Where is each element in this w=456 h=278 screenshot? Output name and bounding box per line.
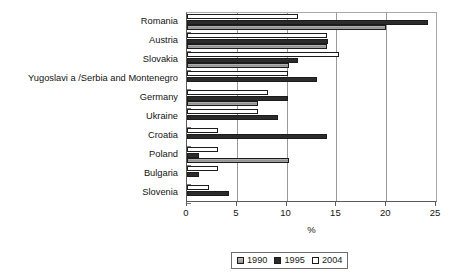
x-tick — [286, 202, 287, 206]
category-label-3: Yugoslavi a /Serbia and Montenegro — [28, 73, 178, 83]
bar-1990-1 — [187, 44, 327, 49]
category-label-2: Slovakia — [143, 54, 178, 64]
bar-2004-4 — [187, 90, 268, 95]
chart-legend: 1990 1995 2004 — [231, 252, 348, 269]
bar-1990-4 — [187, 101, 258, 106]
bar-2004-6 — [187, 128, 218, 133]
bar-1995-7 — [187, 153, 199, 158]
bar-chart: RomaniaAustriaSlovakiaYugoslavi a /Serbi… — [0, 0, 456, 278]
bar-2004-3 — [187, 71, 288, 76]
x-tick-label-5: 25 — [430, 207, 441, 218]
category-label-8: Bulgaria — [144, 168, 178, 178]
legend-item-1990: 1990 — [237, 255, 267, 266]
plot-area — [186, 12, 437, 202]
x-tick — [186, 202, 187, 206]
x-tick — [236, 202, 237, 206]
x-tick-label-1: 5 — [233, 207, 238, 218]
bar-group — [187, 32, 436, 51]
bar-2004-2 — [187, 52, 339, 57]
category-label-9: Slovenia — [142, 187, 178, 197]
x-tick-label-2: 10 — [280, 207, 291, 218]
bar-2004-9 — [187, 185, 209, 190]
bar-group — [187, 165, 436, 184]
bar-group — [187, 184, 436, 203]
white-swatch-icon — [312, 257, 319, 264]
bar-1995-1 — [187, 39, 328, 44]
bar-1990-7 — [187, 158, 289, 163]
x-tick-label-0: 0 — [183, 207, 188, 218]
bar-2004-0 — [187, 14, 298, 19]
category-label-4: Germany — [140, 92, 178, 102]
bar-1995-5 — [187, 115, 278, 120]
category-axis: RomaniaAustriaSlovakiaYugoslavi a /Serbi… — [0, 12, 182, 202]
x-axis-tick-labels: 0510152025 — [186, 207, 437, 221]
legend-label-2004: 2004 — [322, 255, 342, 266]
bar-group — [187, 127, 436, 146]
x-tick — [335, 202, 336, 206]
x-tick-label-4: 20 — [380, 207, 391, 218]
bar-2004-5 — [187, 109, 258, 114]
bar-1995-0 — [187, 20, 428, 25]
bar-1995-2 — [187, 58, 298, 63]
bar-2004-8 — [187, 166, 218, 171]
bar-1995-4 — [187, 96, 288, 101]
bar-group — [187, 146, 436, 165]
x-tick-label-3: 15 — [330, 207, 341, 218]
bar-2004-1 — [187, 33, 327, 38]
bar-group — [187, 108, 436, 127]
x-axis-title: % — [186, 224, 437, 235]
gray-swatch-icon — [237, 257, 244, 264]
category-label-7: Poland — [149, 149, 178, 159]
category-label-6: Croatia — [148, 130, 178, 140]
bar-1990-0 — [187, 25, 386, 30]
x-tick — [435, 202, 436, 206]
bar-1995-9 — [187, 191, 229, 196]
legend-item-2004: 2004 — [312, 255, 342, 266]
bar-1990-2 — [187, 63, 289, 68]
bar-1995-8 — [187, 172, 199, 177]
legend-label-1995: 1995 — [284, 255, 304, 266]
category-label-0: Romania — [141, 16, 178, 26]
bar-2004-7 — [187, 147, 218, 152]
bar-1995-6 — [187, 134, 327, 139]
legend-label-1990: 1990 — [247, 255, 267, 266]
legend-item-1995: 1995 — [274, 255, 304, 266]
bar-group — [187, 70, 436, 89]
bar-group — [187, 13, 436, 32]
bar-group — [187, 51, 436, 70]
category-label-1: Austria — [149, 35, 178, 45]
black-swatch-icon — [274, 257, 281, 264]
x-tick — [385, 202, 386, 206]
category-label-5: Ukraine — [146, 111, 178, 121]
bar-group — [187, 89, 436, 108]
bar-1995-3 — [187, 77, 317, 82]
